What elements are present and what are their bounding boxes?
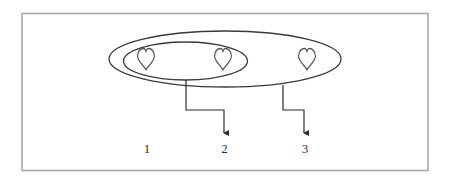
set-diagram: 1 2 3 <box>0 0 449 182</box>
outer-set-ellipse <box>109 31 341 87</box>
heart-outline-icon <box>138 49 155 70</box>
inner-set-arrow <box>186 80 224 133</box>
label-1: 1 <box>144 141 151 156</box>
heart-outline-icon <box>215 49 232 70</box>
label-3: 3 <box>302 141 309 156</box>
outer-set-arrow <box>283 85 304 133</box>
heart-outline-icon <box>299 49 316 70</box>
label-2: 2 <box>221 141 228 156</box>
